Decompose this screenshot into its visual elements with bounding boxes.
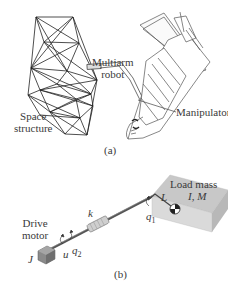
arm-length-label: L [161, 191, 167, 203]
panel-b-caption: (b) [114, 268, 127, 280]
space-label-line1: Space [14, 110, 52, 122]
panel-a-caption: (a) [104, 144, 116, 156]
drive-motor-label: Drive motor [22, 217, 48, 241]
drive-label-line1: Drive [22, 217, 48, 229]
manipulator-label: Manipulator [176, 106, 228, 118]
q1-label: q1 [146, 210, 156, 227]
multiarm-label-line1: Multiarm [92, 56, 134, 68]
q2-label: q2 [72, 244, 82, 261]
space-structure-label: Space structure [14, 110, 52, 134]
space-label-line2: structure [14, 122, 52, 134]
input-torque-label: u [63, 248, 69, 260]
space-shuttle [126, 12, 210, 139]
load-mass-label: Load mass [170, 178, 217, 190]
load-params-label: I, M [188, 190, 206, 202]
multiarm-robot-label: Multiarm robot [92, 56, 134, 80]
spring-constant-label: k [88, 207, 93, 219]
multiarm-label-line2: robot [92, 68, 134, 80]
q1-subscript: 1 [152, 216, 156, 225]
q2-subscript: 2 [78, 250, 82, 259]
drive-label-line2: motor [22, 229, 48, 241]
motor-inertia-label: J [28, 253, 33, 265]
drive-motor-block [38, 246, 55, 264]
